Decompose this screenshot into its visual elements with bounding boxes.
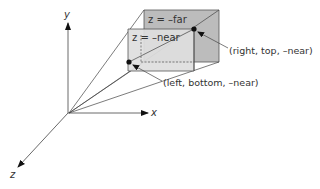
label-left-bottom-near: (left, bottom, –near) xyxy=(163,77,259,88)
z-axis-label: z xyxy=(9,169,16,180)
frustum-diagram: z = –far z = –near (right, top, –near) (… xyxy=(0,0,320,189)
y-axis-label: y xyxy=(63,9,71,20)
near-plane-label: z = –near xyxy=(132,32,181,43)
far-plane-label: z = –far xyxy=(148,14,188,25)
point-left-bottom-near xyxy=(126,59,131,64)
point-right-top-near xyxy=(191,26,196,31)
x-axis-label: x xyxy=(150,107,157,118)
z-axis xyxy=(18,113,68,167)
label-right-top-near: (right, top, –near) xyxy=(229,45,313,56)
